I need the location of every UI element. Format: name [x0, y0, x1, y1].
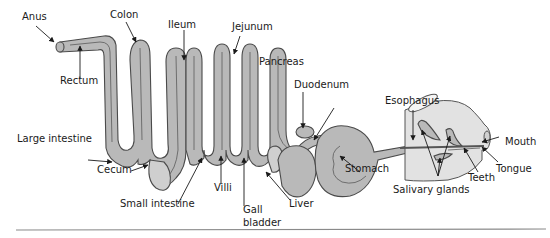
label-anus: Anus [22, 11, 47, 22]
label-gall: Gall [243, 204, 262, 215]
label-colon: Colon [110, 9, 138, 20]
digestive-tract-diagram: Anus Colon Ileum Jejunum Rectum Pancreas… [0, 0, 550, 238]
label-liver: Liver [289, 198, 314, 209]
label-bladder: bladder [243, 217, 282, 228]
label-duodenum: Duodenum [294, 79, 349, 90]
label-esophagus: Esophagus [385, 95, 439, 106]
label-tongue: Tongue [495, 163, 532, 174]
anus-opening [56, 42, 64, 52]
liver-shape [278, 146, 316, 197]
tongue-leader [482, 147, 498, 162]
anus-leader [36, 26, 54, 42]
label-salivary-glands: Salivary glands [393, 184, 469, 195]
label-cecum: Cecum [97, 164, 132, 175]
label-stomach: Stomach [345, 163, 389, 174]
pancreas-shape [296, 126, 314, 138]
label-jejunum: Jejunum [231, 21, 273, 32]
label-pancreas: Pancreas [259, 56, 304, 67]
label-large-intestine: Large intestine [17, 133, 92, 144]
large-intestine-leader [88, 160, 112, 162]
label-teeth: Teeth [467, 172, 495, 183]
label-mouth: Mouth [505, 136, 536, 147]
colon-leader [126, 22, 136, 42]
bottom-rule [16, 229, 546, 230]
label-small-intestine: Small intestine [120, 198, 195, 209]
label-ileum: Ileum [168, 19, 196, 30]
cecum-leader [131, 165, 148, 171]
label-rectum: Rectum [60, 75, 98, 86]
label-villi: Villi [214, 182, 232, 193]
jejunum-leader [234, 36, 240, 54]
